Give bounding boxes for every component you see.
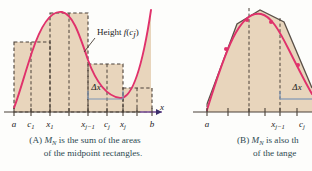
- tick-label-xj: xj: [119, 119, 126, 130]
- tangent-point-1: [224, 47, 228, 51]
- panel-b-label: (B): [237, 135, 249, 145]
- panel-a-height-annotation: Height f(cj): [84, 27, 139, 52]
- panel-b-caption-line-1: (B) MN is also th: [237, 135, 312, 148]
- panel-a-symbol: M: [44, 135, 52, 145]
- figure-container: Δx: [0, 0, 312, 171]
- panel-b-caption-rest-1: is also th: [264, 135, 299, 145]
- panel-b-caption: (B) MN is also th of the tange: [185, 135, 312, 160]
- panel-a: Δx: [0, 0, 170, 171]
- tick-label-x1: x1: [45, 119, 53, 130]
- panel-b-svg: Δx a xj−1: [185, 0, 312, 138]
- panel-a-caption-rest-1: is the sum of the areas: [56, 135, 140, 145]
- panel-b-tick-label-xj-1: xj−1: [270, 119, 285, 130]
- tick-label-b: b: [150, 119, 155, 129]
- panel-b-plot: Δx a xj−1: [185, 0, 312, 138]
- panel-a-height-label: Height f(cj): [97, 27, 139, 39]
- panel-b-caption-line-2: of the tange: [237, 148, 312, 160]
- panel-b-tick-labels: a xj−1 cj: [205, 119, 305, 130]
- tick-label-cj: cj: [104, 119, 110, 130]
- panel-a-label: (A): [29, 135, 42, 145]
- panel-b: Δx a xj−1: [185, 0, 312, 171]
- tangent-point-3: [269, 20, 273, 24]
- panel-a-delta-x-label: Δx: [90, 82, 100, 92]
- panel-b-tick-label-a: a: [205, 119, 210, 129]
- tick-label-xj-1: xj−1: [80, 119, 95, 130]
- panel-a-axis-name: x: [159, 102, 164, 112]
- panel-a-caption: (A) MN is the sum of the areas of the mi…: [0, 135, 170, 160]
- tick-label-a: a: [12, 119, 17, 129]
- tangent-point-4: [296, 63, 300, 67]
- panel-a-plot: Δx: [0, 0, 170, 138]
- tangent-point-2: [245, 18, 249, 22]
- panel-a-tick-labels: a c1 x1 xj−1 cj xj b: [12, 119, 155, 130]
- panel-a-caption-line-2: of the midpoint rectangles.: [0, 148, 170, 160]
- panel-b-tick-label-cj: cj: [299, 119, 305, 130]
- panel-b-delta-x-label: Δx: [291, 82, 301, 92]
- tick-label-c1: c1: [27, 119, 34, 130]
- panel-a-caption-line-1: (A) MN is the sum of the areas: [0, 135, 170, 148]
- panel-a-svg: Δx: [0, 0, 170, 138]
